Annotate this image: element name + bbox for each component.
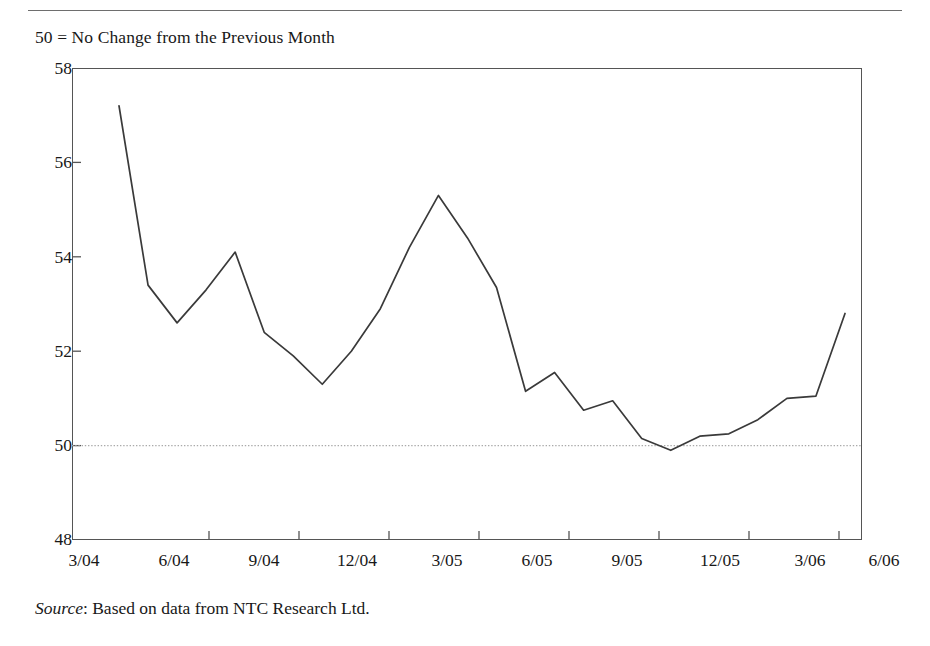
data-line-series [119,106,845,451]
x-tick-label-9-05: 9/05 [611,552,642,570]
y-tick-label-48: 48 [12,531,72,549]
x-tick-label-6-05: 6/05 [521,552,552,570]
x-tick-label-12-04: 12/04 [337,552,377,570]
y-tick-label-56: 56 [12,154,72,172]
chart-legend-note: 50 = No Change from the Previous Month [35,27,335,48]
x-tick-label-6-04: 6/04 [158,552,189,570]
y-tick-label-54: 54 [12,249,72,267]
figure-container: 50 = No Change from the Previous Month 5… [0,0,930,646]
x-tick-label-12-05: 12/05 [700,552,740,570]
x-tick-label-3-04: 3/04 [68,552,99,570]
source-text: : Based on data from NTC Research Ltd. [83,598,370,618]
y-axis-ticks [72,162,81,445]
source-note: Source: Based on data from NTC Research … [35,598,370,619]
y-tick-label-50: 50 [12,437,72,455]
x-tick-label-3-05: 3/05 [431,552,462,570]
x-tick-label-9-04: 9/04 [248,552,279,570]
y-tick-label-58: 58 [12,60,72,78]
chart-plot-area [72,68,862,540]
x-axis-ticks [209,531,839,540]
y-tick-label-52: 52 [12,343,72,361]
x-tick-label-3-06: 3/06 [794,552,825,570]
x-tick-label-6-06: 6/06 [868,552,899,570]
top-rule-divider [28,10,902,11]
source-label: Source [35,598,83,618]
